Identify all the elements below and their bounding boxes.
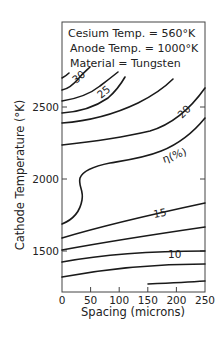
legend-material: Material = Tungsten xyxy=(70,57,181,70)
contour-chart: Cesium Temp. = 560°K Anode Temp. = 1000°… xyxy=(0,0,224,337)
contour-31 xyxy=(62,73,69,78)
contour-7 xyxy=(62,264,205,277)
contour-10 xyxy=(62,251,205,262)
x-tick-label-250: 250 xyxy=(195,294,215,306)
contour-label-15: 15 xyxy=(152,206,167,220)
contour-5 xyxy=(148,281,205,284)
contour-12 xyxy=(62,227,205,250)
eta-percent-label: η(%) xyxy=(161,145,188,165)
x-ticks xyxy=(91,287,177,292)
y-tick-label-1500: 1500 xyxy=(32,245,59,257)
legend-cesium-temp: Cesium Temp. = 560°K xyxy=(68,27,196,40)
contour-25 xyxy=(62,77,125,113)
y-tick-label-2000: 2000 xyxy=(32,173,59,185)
contour-15 xyxy=(62,203,205,238)
y-tick-label-2500: 2500 xyxy=(32,101,59,113)
contour-lines xyxy=(62,67,205,284)
x-tick-label-0: 0 xyxy=(59,294,66,306)
x-axis-title: Spacing (microns) xyxy=(81,305,185,319)
legend-anode-temp: Anode Temp. = 1000°K xyxy=(70,42,199,55)
contour-22 xyxy=(62,79,173,123)
contour-label-10: 10 xyxy=(168,248,181,260)
contour-label-25: 25 xyxy=(95,83,113,101)
y-axis-title: Cathode Temperature (°K) xyxy=(13,100,27,251)
contour-label-30: 30 xyxy=(70,68,88,86)
